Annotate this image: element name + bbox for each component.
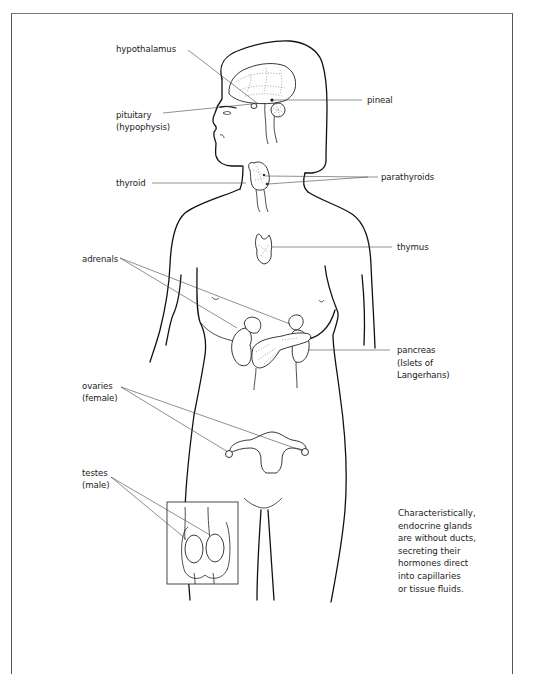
- label-thymus: thymus: [397, 241, 429, 253]
- caption-note: Characteristically, endocrine glands are…: [398, 507, 476, 595]
- label-ovaries: ovaries: [82, 380, 113, 392]
- brain: [229, 64, 296, 144]
- label-thyroid: thyroid: [116, 177, 146, 189]
- label-pancreas-langerhans: Langerhans): [397, 369, 450, 381]
- thymus-gland: [256, 234, 272, 264]
- label-pancreas: pancreas: [397, 344, 435, 356]
- label-pineal: pineal: [367, 94, 393, 106]
- label-hypothalamus: hypothalamus: [116, 43, 176, 55]
- kidneys-adrenals-pancreas: [232, 315, 311, 390]
- label-testes-male: (male): [82, 479, 109, 491]
- testes-inset: [167, 502, 238, 584]
- label-testes: testes: [82, 467, 108, 479]
- thyroid-gland: [249, 162, 270, 212]
- label-pancreas-islets: (Islets of: [397, 357, 433, 369]
- label-ovaries-female: (female): [82, 392, 118, 404]
- label-adrenals: adrenals: [82, 253, 118, 265]
- label-pituitary: pituitary: [116, 109, 151, 121]
- label-parathyroids: parathyroids: [381, 171, 434, 183]
- label-pituitary-alt: (hypophysis): [116, 121, 170, 133]
